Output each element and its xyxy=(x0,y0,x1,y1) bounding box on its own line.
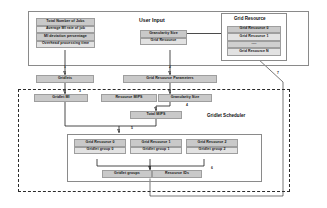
user-input-title: User Input xyxy=(139,18,165,23)
step-number-5: 5 xyxy=(131,127,133,130)
scheduler-input-gridlet-mi[interactable]: Gridlet MI xyxy=(34,94,88,102)
gridlet-scheduler-title: Gridlet Scheduler xyxy=(207,114,245,119)
assignment-resource-1[interactable]: Grid Resource 1 xyxy=(130,139,182,147)
assignment-group-0[interactable]: Gridlet group 0 xyxy=(74,147,126,155)
step-number-7: 7 xyxy=(277,72,279,75)
step-number-6: 6 xyxy=(211,167,213,170)
step-number-1: 1 xyxy=(64,66,66,69)
job-param-overhead-time[interactable]: Overhead processing time xyxy=(36,41,95,49)
output-resource-ids[interactable]: Resource IDs xyxy=(152,170,202,178)
scheduler-input-resource-mips[interactable]: Resource MIPS xyxy=(101,94,157,102)
grid-resource-item-0[interactable]: Grid Resource 0 xyxy=(227,26,281,34)
input-granularity-size[interactable]: Granularity Size xyxy=(140,30,187,38)
scheduler-input-granularity-size[interactable]: Granularity Size xyxy=(158,94,212,102)
grid-resource-item-ellipsis: ---- xyxy=(227,41,281,49)
assignment-group-2[interactable]: Gridlet group 2 xyxy=(186,147,238,155)
assignment-resource-2[interactable]: Grid Resource 2 xyxy=(186,139,238,147)
job-param-mi-deviation[interactable]: MI deviation percentage xyxy=(36,33,95,41)
grid-resource-title: Grid Resource xyxy=(234,17,266,22)
job-param-avg-mi-rate[interactable]: Average MI rate of job xyxy=(36,26,95,34)
step-number-4: 4 xyxy=(186,104,188,107)
grid-resource-item-1[interactable]: Grid Resource 1 xyxy=(227,33,281,41)
output-gridlet-groups[interactable]: Gridlet groups xyxy=(102,170,152,178)
gridlets-node[interactable]: Gridlets xyxy=(36,75,94,83)
grid-resource-parameters-node[interactable]: Grid Resource Parameters xyxy=(123,75,217,83)
step-number-2: 2 xyxy=(169,66,171,69)
grid-resource-item-n[interactable]: Grid Resource N xyxy=(227,48,281,56)
assignment-resource-0[interactable]: Grid Resource 0 xyxy=(74,139,126,147)
step-number-3: 3 xyxy=(79,90,81,93)
job-param-total-jobs[interactable]: Total Number of Jobs xyxy=(36,18,95,26)
scheduler-total-mips[interactable]: Total MIPS xyxy=(130,111,182,119)
diagram-canvas: User Input Total Number of Jobs Average … xyxy=(0,0,327,208)
input-grid-resource[interactable]: Grid Resource xyxy=(140,38,187,46)
assignment-group-1[interactable]: Gridlet group 1 xyxy=(130,147,182,155)
